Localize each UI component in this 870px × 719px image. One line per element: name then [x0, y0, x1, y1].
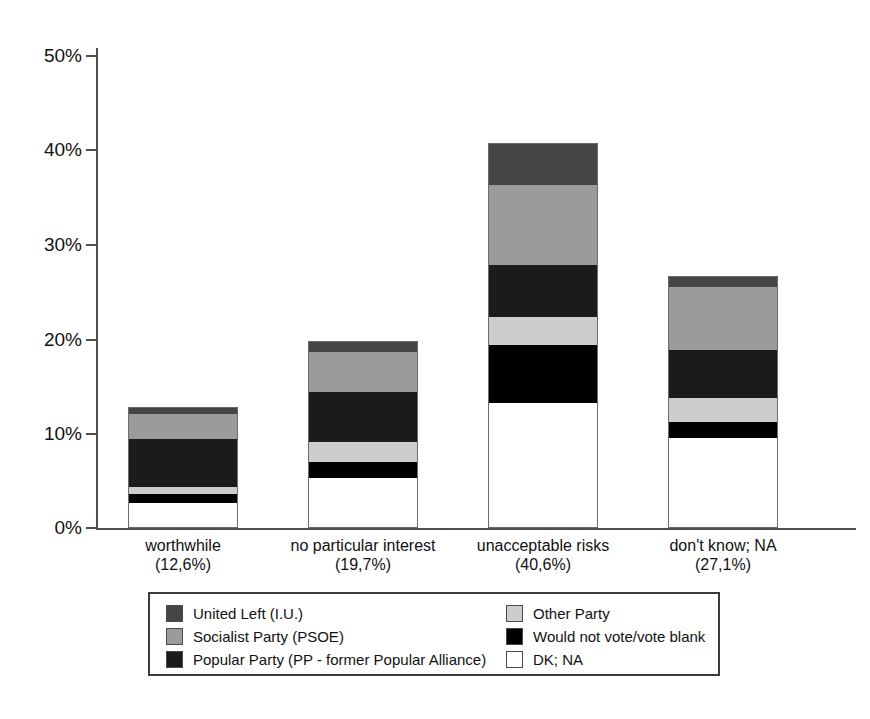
bar-segment-dkna [488, 403, 598, 528]
bar-segment-socialist [488, 185, 598, 265]
x-axis-category-total: (27,1%) [608, 555, 838, 574]
legend-item[interactable]: Popular Party (PP - former Popular Allia… [166, 648, 496, 670]
bar-segment-dkna [668, 438, 778, 528]
legend-swatch-popular [166, 651, 183, 668]
bar-segment-socialist [128, 414, 238, 439]
bar-segment-socialist [668, 287, 778, 350]
legend-label: DK; NA [533, 651, 583, 668]
bar-segment-wouldnotvote [668, 422, 778, 438]
legend: United Left (I.U.)Socialist Party (PSOE)… [148, 592, 720, 676]
bar-segment-other [308, 442, 418, 462]
bar-segment-other [668, 398, 778, 422]
bar-segment-wouldnotvote [308, 462, 418, 478]
legend-item[interactable]: Other Party [506, 602, 716, 624]
legend-swatch-wouldnot [506, 628, 523, 645]
legend-swatch-other [506, 605, 523, 622]
legend-item[interactable]: Socialist Party (PSOE) [166, 625, 496, 647]
bar-1 [128, 407, 238, 528]
legend-item[interactable]: DK; NA [506, 648, 716, 670]
bar-segment-socialist [308, 352, 418, 392]
bar-segment-other [128, 487, 238, 494]
bar-segment-united-left [308, 341, 418, 352]
legend-label: United Left (I.U.) [193, 605, 303, 622]
bar-segment-united-left [488, 143, 598, 185]
legend-swatch-socialist [166, 628, 183, 645]
legend-swatch-dkna [506, 651, 523, 668]
bar-segment-united-left [128, 407, 238, 414]
bar-segment-popular [308, 392, 418, 442]
legend-label: Socialist Party (PSOE) [193, 628, 344, 645]
legend-item[interactable]: Would not vote/vote blank [506, 625, 716, 647]
bar-segment-popular [668, 350, 778, 398]
bar-segment-popular [128, 439, 238, 487]
legend-label: Would not vote/vote blank [533, 628, 705, 645]
bar-segment-wouldnotvote [488, 345, 598, 403]
stacked-bar-chart: 50%40%30%20%10%0% worthwhile(12,6%)no pa… [0, 0, 870, 719]
legend-label: Other Party [533, 605, 610, 622]
bar-segment-other [488, 317, 598, 345]
x-axis-category-name: don't know; NA [608, 536, 838, 555]
bar-segment-wouldnotvote [128, 494, 238, 503]
bar-segment-united-left [668, 276, 778, 287]
bar-segment-popular [488, 265, 598, 317]
legend-label: Popular Party (PP - former Popular Allia… [193, 651, 486, 668]
bar-4 [668, 276, 778, 528]
bar-3 [488, 143, 598, 528]
legend-item[interactable]: United Left (I.U.) [166, 602, 496, 624]
bar-2 [308, 341, 418, 528]
legend-swatch-united-left [166, 605, 183, 622]
legend-column-left: United Left (I.U.)Socialist Party (PSOE)… [166, 602, 496, 671]
bar-segment-dkna [308, 478, 418, 528]
legend-column-right: Other PartyWould not vote/vote blankDK; … [506, 602, 716, 671]
bar-segment-dkna [128, 503, 238, 528]
x-axis-label: don't know; NA(27,1%) [608, 536, 838, 574]
